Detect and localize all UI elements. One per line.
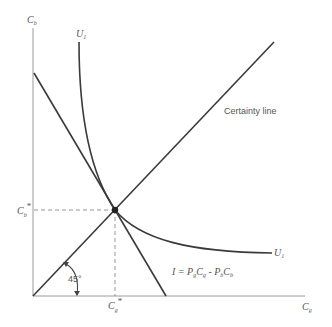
indifference-diagram: Cb Cg U1 U1 Certainty line I = PgCg - Pb… xyxy=(0,0,332,327)
cb-star-label: Cb* xyxy=(17,201,32,218)
certainty-line-label: Certainty line xyxy=(224,106,277,116)
u1-right-label: U1 xyxy=(274,247,284,259)
cg-star-label: Cg* xyxy=(108,296,123,313)
y-axis-label: Cb xyxy=(27,14,37,26)
u1-top-label: U1 xyxy=(76,28,86,40)
angle-label: 45° xyxy=(68,274,82,284)
budget-line xyxy=(34,73,166,296)
tangency-point xyxy=(112,207,118,213)
certainty-line xyxy=(33,42,274,296)
x-axis-label: Cg xyxy=(302,301,312,313)
angle-arrow-bottom xyxy=(74,291,80,296)
budget-line-label: I = PgCg - PbCb xyxy=(171,266,233,278)
